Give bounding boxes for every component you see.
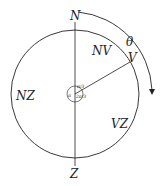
label-n: N: [69, 9, 81, 23]
circle-diagram: N Z V θ NV NZ VZ π/3 π 2π/3: [0, 0, 164, 186]
arrowhead-icon: [149, 89, 155, 95]
region-vz: VZ: [111, 117, 129, 131]
label-theta: θ: [126, 35, 134, 49]
angle-lower: 2π/3: [75, 94, 86, 99]
region-nz: NZ: [15, 89, 36, 103]
region-nv: NV: [91, 44, 113, 58]
theta-arc: [78, 12, 152, 90]
angle-left: π: [67, 93, 72, 98]
radius-v: [75, 62, 130, 94]
angle-upper: π/3: [76, 84, 84, 89]
label-z: Z: [69, 167, 79, 181]
label-v: V: [128, 51, 138, 65]
